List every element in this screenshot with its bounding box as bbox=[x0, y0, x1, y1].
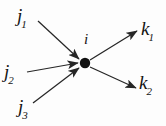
incoming-edges bbox=[27, 21, 79, 103]
edge-j2 bbox=[27, 63, 78, 72]
label-j2: j2 bbox=[4, 62, 15, 84]
label-j1-sub: 1 bbox=[21, 18, 27, 30]
edge-j1 bbox=[38, 21, 79, 59]
outgoing-edges bbox=[90, 31, 137, 88]
edge-j3 bbox=[33, 68, 79, 103]
label-j1: j1 bbox=[17, 6, 28, 28]
interaction-diagram: i j1 j2 j3 k1 k2 bbox=[0, 0, 166, 126]
label-k1-sub: 1 bbox=[148, 31, 154, 43]
vertex-label: i bbox=[84, 31, 88, 47]
edge-k2 bbox=[90, 67, 136, 88]
label-j3: j3 bbox=[18, 97, 29, 119]
label-j2-sub: 2 bbox=[8, 74, 14, 86]
label-j3-sub: 3 bbox=[22, 109, 28, 121]
vertex-node bbox=[80, 58, 90, 68]
label-k1: k1 bbox=[141, 19, 155, 41]
edge-k1 bbox=[90, 31, 137, 60]
label-k2: k2 bbox=[139, 73, 153, 95]
label-k2-sub: 2 bbox=[146, 85, 152, 97]
vertex-label-base: i bbox=[84, 31, 88, 47]
